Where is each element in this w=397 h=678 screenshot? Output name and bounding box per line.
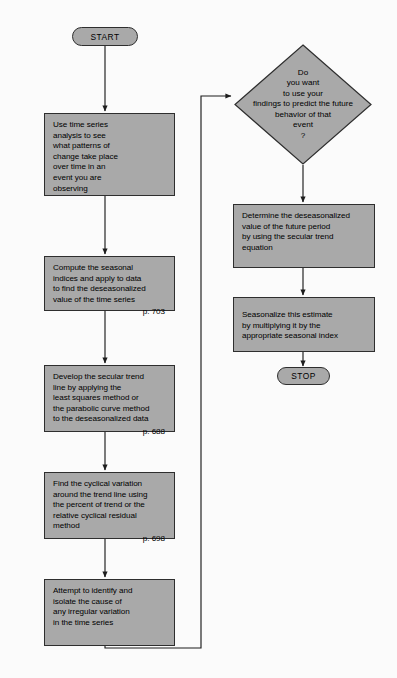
text-line: event you are: [53, 173, 167, 184]
text-line: relative cyclical residual: [53, 511, 167, 522]
text-line: Develop the secular trend: [53, 372, 167, 383]
page-reference: p. 698: [53, 534, 167, 545]
process-box-seasonalize-estimate: Seasonalize this estimate by multiplying…: [233, 297, 375, 352]
text-line: over time in an: [53, 162, 167, 173]
stop-label: STOP: [291, 371, 316, 381]
text-line: any irregular variation: [53, 607, 167, 618]
text-line: what patterns of: [53, 141, 167, 152]
process-box-use-time-series: Use time series analysis to see what pat…: [44, 113, 175, 196]
text-line: Compute the seasonal: [53, 263, 167, 274]
text-line: isolate the cause of: [53, 597, 167, 608]
text-line: equation: [242, 243, 367, 254]
text-line: Use time series: [53, 120, 167, 131]
text-line: in the time series: [53, 618, 167, 629]
process-box-compute-seasonal-indices: Compute the seasonal indices and apply t…: [44, 256, 175, 311]
diamond-shape: [234, 44, 372, 165]
process-box-develop-secular-trend: Develop the secular trend line by applyi…: [44, 365, 175, 432]
text-line: line by applying the: [53, 383, 167, 394]
text-line: to the deseasonalized data: [53, 414, 167, 425]
text-line: method: [53, 521, 167, 532]
start-terminator: START: [72, 27, 138, 46]
process-box-determine-deseasonalized-future: Determine the deseasonalized value of th…: [233, 204, 375, 268]
text-line: indices and apply to data: [53, 274, 167, 285]
text-line: Attempt to identify and: [53, 586, 167, 597]
text-line: around the trend line using: [53, 490, 167, 501]
text-line: least squares method or: [53, 393, 167, 404]
text-line: by multiplying it by the: [242, 321, 367, 332]
text-line: Find the cyclical variation: [53, 479, 167, 490]
text-line: by using the secular trend: [242, 232, 367, 243]
text-line: the parabolic curve method: [53, 404, 167, 415]
page-reference: p. 688: [53, 427, 167, 438]
process-box-identify-irregular-variation: Attempt to identify and isolate the caus…: [44, 579, 175, 646]
text-line: Determine the deseasonalized: [242, 211, 367, 222]
process-box-find-cyclical-variation: Find the cyclical variation around the t…: [44, 472, 175, 539]
text-line: the percent of trend or the: [53, 500, 167, 511]
text-line: appropriate seasonal index: [242, 331, 367, 342]
flowchart-canvas: START Use time series analysis to see wh…: [0, 0, 397, 678]
text-line: Seasonalize this estimate: [242, 310, 367, 321]
decision-predict-future-behavior: Do you want to use your findings to pred…: [234, 44, 372, 165]
page-reference: p. 703: [53, 307, 167, 318]
start-label: START: [90, 32, 119, 42]
text-line: change take place: [53, 152, 167, 163]
stop-terminator: STOP: [277, 367, 330, 385]
text-line: observing: [53, 184, 167, 195]
text-line: to find the deseasonalized: [53, 284, 167, 295]
text-line: value of the future period: [242, 222, 367, 233]
text-line: analysis to see: [53, 131, 167, 142]
text-line: value of the time series: [53, 295, 167, 306]
